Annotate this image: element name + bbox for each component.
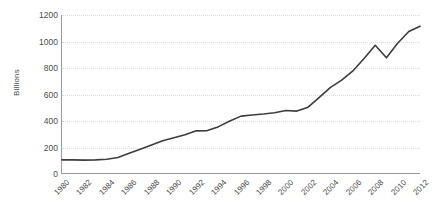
y-tick-label: 800 (44, 63, 58, 73)
y-axis-tick-labels: 020040060080010001200 (26, 0, 58, 207)
x-tick-label: 1988 (115, 178, 161, 207)
x-tick-label: 1996 (205, 178, 251, 207)
x-tick-label: 2002 (272, 178, 318, 207)
y-tick-label: 1000 (39, 37, 58, 47)
series-line-billions (62, 26, 420, 160)
plot-area (61, 15, 420, 174)
x-tick-label: 1990 (138, 178, 184, 207)
series-layer (62, 15, 420, 173)
x-tick-label: 1984 (70, 178, 116, 207)
x-tick-label: 2010 (362, 178, 408, 207)
x-tick-label: 2004 (295, 178, 341, 207)
y-axis-title: Billions (12, 53, 21, 113)
x-tick-label: 2000 (250, 178, 296, 207)
line-chart: Billions 020040060080010001200 198019821… (0, 0, 433, 207)
x-tick-label: 1994 (182, 178, 228, 207)
y-tick-label: 200 (44, 143, 58, 153)
x-tick-label: 1998 (227, 178, 273, 207)
x-tick-label: 1992 (160, 178, 206, 207)
y-tick-label: 400 (44, 116, 58, 126)
x-tick-label: 2006 (317, 178, 363, 207)
y-tick-label: 600 (44, 90, 58, 100)
y-tick-label: 1200 (39, 10, 58, 20)
x-tick-label: 2012 (384, 178, 430, 207)
x-tick-label: 2008 (340, 178, 386, 207)
x-tick-label: 1986 (93, 178, 139, 207)
y-tick-label: 0 (53, 169, 58, 179)
